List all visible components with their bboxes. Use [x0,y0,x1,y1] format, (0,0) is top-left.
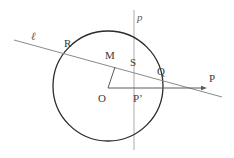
geometry-canvas [0,0,234,158]
line-label-l: ℓ [31,31,36,42]
point-label-m: M [105,50,115,61]
radius-segment-om [108,67,115,88]
point-label-r: R [64,38,71,49]
point-label-q: Q [157,66,165,77]
arrowhead-icon [201,86,207,90]
line-label-p: p [137,12,143,23]
point-label-p: P [209,73,215,84]
point-label-p-prime: P’ [133,93,143,104]
geometry-diagram: ℓ p R M S Q P O P’ [0,0,234,158]
point-label-o: O [98,93,106,104]
point-label-s: S [130,57,136,68]
